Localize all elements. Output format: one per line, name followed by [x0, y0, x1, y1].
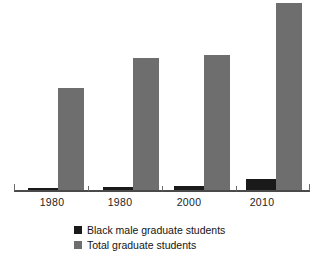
x-axis-tick-1: [88, 186, 89, 191]
x-axis-right-endcap: [309, 184, 310, 191]
legend-item-total-graduate-students: Total graduate students: [0, 237, 324, 252]
x-axis-left-endcap: [14, 184, 15, 191]
bar-total-graduate-students-1980-b: [133, 58, 159, 191]
chart-legend: Black male graduate students Total gradu…: [0, 222, 324, 252]
legend-item-black-male-graduate-students: Black male graduate students: [0, 222, 324, 237]
bar-total-graduate-students-2000: [204, 55, 230, 191]
x-axis-tick-3: [236, 186, 237, 191]
x-axis-tick-2: [162, 186, 163, 191]
x-axis-label-0: 1980: [22, 196, 82, 208]
bar-group-2000: [170, 0, 234, 191]
x-axis-label-2: 2000: [159, 196, 219, 208]
legend-label-black-male-graduate-students: Black male graduate students: [87, 224, 225, 236]
bar-total-graduate-students-2010: [276, 3, 302, 191]
bar-group-1980-b: [99, 0, 163, 191]
x-axis-label-1: 1980: [90, 196, 150, 208]
legend-swatch-icon-gray: [74, 241, 82, 249]
legend-swatch-icon-black: [74, 226, 82, 234]
plot-area: [14, 0, 310, 191]
bar-group-2010: [242, 0, 306, 191]
legend-label-total-graduate-students: Total graduate students: [87, 239, 196, 251]
bar-group-1980-a: [24, 0, 88, 191]
x-axis-label-3: 2010: [232, 196, 292, 208]
bar-chart-figure: 1980 1980 2000 2010 Black male graduate …: [0, 0, 324, 273]
bar-total-graduate-students-1980-a: [58, 88, 84, 191]
